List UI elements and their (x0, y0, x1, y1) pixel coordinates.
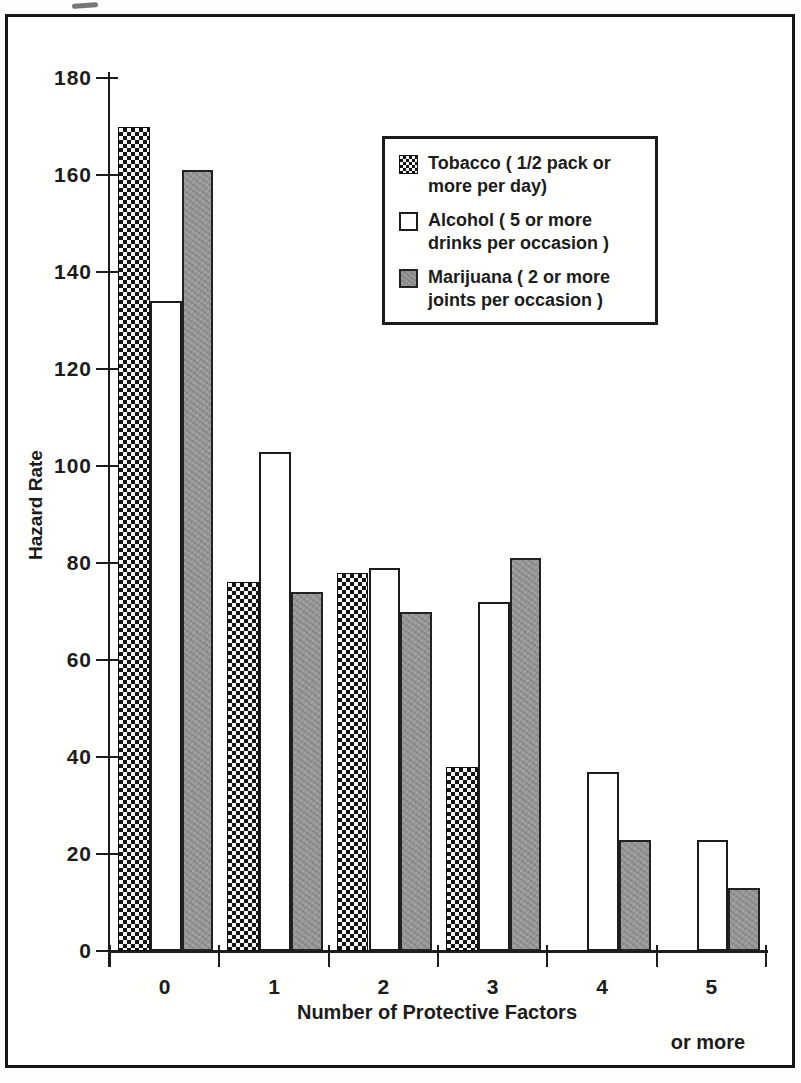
alcohol-white-swatch (399, 212, 418, 231)
bar-tobacco-group-1 (227, 582, 259, 951)
bar-alcohol-group-2 (369, 568, 401, 951)
legend-item-alcohol: Alcohol ( 5 or more drinks per occasion … (399, 209, 645, 255)
x-category-label: 1 (244, 975, 304, 999)
marijuana-gray-swatch (399, 269, 418, 288)
x-category-label: 3 (463, 975, 523, 999)
legend-label-marijuana: Marijuana ( 2 or more joints per occasio… (428, 266, 645, 312)
bar-alcohol-group-5 (697, 840, 729, 952)
y-tick-label: 140 (38, 261, 92, 283)
x-axis-tick (656, 945, 658, 967)
legend: Tobacco ( 1/2 pack or more per day) Alco… (382, 136, 658, 325)
y-axis-tick (96, 562, 118, 564)
x-axis-tick (437, 945, 439, 967)
y-tick-label: 160 (38, 164, 92, 186)
x-category-label: 0 (135, 975, 195, 999)
x-axis-tick (546, 945, 548, 967)
bar-marijuana-group-0 (182, 170, 214, 951)
legend-item-marijuana: Marijuana ( 2 or more joints per occasio… (399, 266, 645, 312)
x-axis-title: Number of Protective Factors (237, 1001, 637, 1024)
x-category-label: 4 (572, 975, 632, 999)
bar-tobacco-group-2 (337, 573, 369, 951)
y-axis-tick (96, 853, 118, 855)
bar-marijuana-group-2 (400, 612, 432, 952)
y-axis-tick (96, 659, 118, 661)
bar-tobacco-group-0 (118, 127, 150, 952)
tobacco-checker-swatch (399, 155, 418, 174)
bar-alcohol-group-0 (150, 301, 182, 951)
y-axis-tick (96, 77, 118, 79)
y-axis-tick (96, 174, 118, 176)
y-tick-label: 40 (38, 746, 92, 768)
scanned-bar-chart-page: { "colors": { "ink": "#1c1c1c", "paper":… (0, 0, 801, 1083)
bar-alcohol-group-3 (478, 602, 510, 951)
bar-alcohol-group-4 (587, 772, 619, 951)
y-axis-tick (96, 465, 118, 467)
y-axis-tick (96, 368, 118, 370)
y-tick-label: 180 (38, 67, 92, 89)
x-axis-tick (765, 945, 767, 967)
y-axis-title: Hazard Rate (25, 405, 51, 605)
y-axis-tick (96, 950, 118, 952)
y-axis-tick (96, 271, 118, 273)
x-axis-tick (218, 945, 220, 967)
bar-marijuana-group-4 (619, 840, 651, 952)
y-axis-tick (96, 756, 118, 758)
x-category-label: 2 (353, 975, 413, 999)
x-category-label: 5 (681, 975, 741, 999)
y-tick-label: 20 (38, 843, 92, 865)
y-axis-line (108, 72, 110, 967)
y-tick-label: 60 (38, 649, 92, 671)
scan-noise-mark (72, 2, 98, 9)
bar-marijuana-group-5 (728, 888, 760, 951)
legend-item-tobacco: Tobacco ( 1/2 pack or more per day) (399, 152, 645, 198)
x-axis-tick (328, 945, 330, 967)
legend-label-tobacco: Tobacco ( 1/2 pack or more per day) (428, 152, 645, 198)
bar-alcohol-group-1 (259, 452, 291, 952)
x-axis-tick (109, 945, 111, 967)
bar-tobacco-group-3 (446, 767, 478, 951)
x-axis-subtitle: or more (628, 1031, 788, 1054)
legend-label-alcohol: Alcohol ( 5 or more drinks per occasion … (428, 209, 645, 255)
y-tick-label: 0 (38, 940, 92, 962)
bar-marijuana-group-3 (510, 558, 542, 951)
y-tick-label: 120 (38, 358, 92, 380)
bar-marijuana-group-1 (291, 592, 323, 951)
